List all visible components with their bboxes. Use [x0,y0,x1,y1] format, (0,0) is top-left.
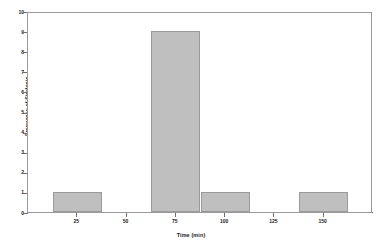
y-axis-tick-mark [23,133,27,134]
histogram-bar [201,192,250,212]
y-axis-tick-label: 8 [8,50,24,55]
x-axis-tick-mark [273,213,274,217]
y-axis-tick-mark [23,173,27,174]
y-axis-tick-label: 10 [8,10,24,15]
y-axis-tick-mark [23,12,27,13]
y-axis-tick-label-group: 012345678910 [8,0,24,251]
y-axis-tick-mark [23,52,27,53]
y-axis-tick-label: 2 [8,170,24,175]
y-axis-tick-mark [23,32,27,33]
histogram-figure: Frequency of Students 012345678910 25507… [0,0,382,251]
y-axis-tick-label: 0 [8,211,24,216]
histogram-bar [53,192,102,212]
histogram-bar [151,31,200,212]
y-axis-tick-mark [23,92,27,93]
y-axis-tick-label: 6 [8,90,24,95]
x-axis-tick-mark [224,213,225,217]
y-axis-tick-label: 5 [8,110,24,115]
y-axis-tick-mark [23,113,27,114]
y-axis-tick-label: 7 [8,70,24,75]
histogram-bar [299,192,348,212]
x-axis-tick-label: 100 [209,219,239,224]
plot-area [27,12,372,213]
x-axis-tick-label: 150 [308,219,338,224]
bars-container [28,13,371,212]
y-axis-tick-mark [23,153,27,154]
x-axis-tick-mark [76,213,77,217]
y-axis-tick-mark [23,72,27,73]
y-axis-tick-mark [23,213,27,214]
y-axis-tick-label: 9 [8,30,24,35]
y-axis-tick-label: 3 [8,150,24,155]
x-axis-tick-label: 75 [160,219,190,224]
x-axis-tick-label: 50 [111,219,141,224]
x-axis-title: Time (min) [0,232,382,238]
x-axis-tick-mark [126,213,127,217]
y-axis-tick-mark [23,193,27,194]
x-axis-tick-mark [175,213,176,217]
x-axis-tick-label: 125 [258,219,288,224]
x-axis-tick-label: 25 [61,219,91,224]
x-axis-tick-mark [323,213,324,217]
y-axis-tick-label: 4 [8,130,24,135]
y-axis-tick-label: 1 [8,190,24,195]
x-axis-tick-label-group: 255075100125150 [0,219,382,229]
